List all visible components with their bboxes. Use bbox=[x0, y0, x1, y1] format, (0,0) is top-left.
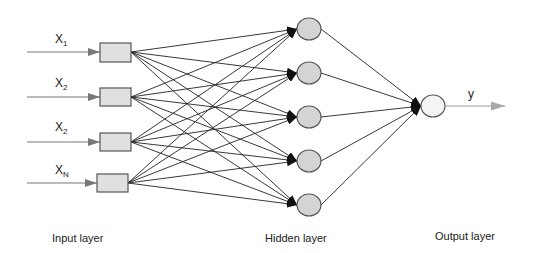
output-layer-label: Output layer bbox=[435, 230, 495, 242]
hidden-to-output-edges bbox=[321, 29, 421, 205]
input-label-n: XN bbox=[55, 163, 69, 179]
network-diagram bbox=[0, 0, 545, 253]
output-node bbox=[421, 95, 445, 117]
input-to-hidden-edges bbox=[128, 29, 297, 205]
input-layer-label: Input layer bbox=[52, 232, 103, 244]
input-label-2: X2 bbox=[55, 76, 67, 92]
input-label-3: X2 bbox=[55, 120, 67, 136]
input-label-1: X1 bbox=[55, 32, 67, 48]
output-label-y: y bbox=[468, 87, 474, 101]
hidden-layer-label: Hidden layer bbox=[265, 232, 327, 244]
hidden-nodes bbox=[297, 18, 321, 216]
input-boxes bbox=[97, 43, 131, 192]
